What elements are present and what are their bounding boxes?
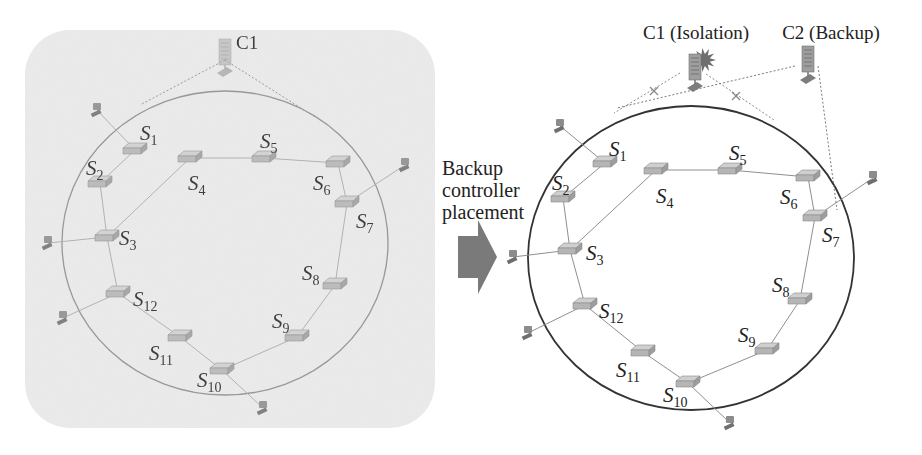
network-ring — [528, 106, 854, 410]
switch-s10 — [676, 376, 700, 387]
controller-c2-label: C2 (Backup) — [782, 22, 880, 44]
switch-s12 — [106, 286, 130, 297]
switch-s6 — [796, 170, 820, 181]
switch-label-s7: S7 — [822, 223, 840, 250]
switch-label-s3: S3 — [586, 241, 604, 268]
switch-s4 — [644, 163, 668, 174]
switch-s7 — [335, 196, 359, 207]
switch-label-s4: S4 — [656, 184, 674, 211]
switch-s3 — [95, 230, 119, 241]
switch-s9 — [755, 343, 779, 354]
link-s8-s9 — [767, 300, 800, 350]
backup-controller-link — [818, 66, 837, 210]
switch-s12 — [573, 298, 597, 309]
host-icon — [522, 326, 533, 340]
switch-label-s2: S2 — [552, 171, 570, 198]
switch-label-s9: S9 — [738, 323, 756, 350]
link-s12-s3 — [570, 250, 585, 305]
transition-label-line-1: Backup — [442, 157, 503, 180]
switch-label-s11: S11 — [616, 358, 640, 385]
switch-label-s1: S1 — [609, 137, 627, 164]
controller-c2-icon — [800, 46, 816, 84]
right-network: S1S2S3S4S5S6S7S8S9S10S11S12C1 (Isolation… — [507, 22, 880, 430]
switch-s6 — [326, 156, 350, 167]
left-panel: S1S2S3S4S5S6S7S8S9S10S11S12C1 — [25, 30, 435, 428]
link-s2-s3 — [563, 198, 570, 250]
switch-s11 — [631, 345, 655, 356]
switch-s8 — [788, 293, 812, 304]
switch-s3 — [558, 243, 582, 254]
controller-c1-label: C1 — [236, 32, 258, 53]
controller-c1-icon — [687, 54, 703, 92]
switch-label-s5: S5 — [729, 141, 747, 168]
switch-s10 — [210, 363, 234, 374]
right-arrow-icon — [458, 220, 497, 294]
host-icon — [507, 250, 518, 264]
link-s7-s8 — [800, 217, 815, 300]
host-link — [688, 383, 730, 423]
backup-controller-link — [617, 66, 795, 108]
switch-label-s6: S6 — [780, 185, 798, 212]
switch-s8 — [323, 278, 347, 289]
host-icon — [554, 119, 565, 133]
switch-s11 — [168, 330, 192, 341]
transition: Backup controller placement — [442, 157, 525, 294]
transition-label-line-3: placement — [442, 201, 525, 224]
switch-label-s12: S12 — [599, 299, 624, 326]
switch-label-s8: S8 — [772, 273, 790, 300]
switch-s7 — [803, 210, 827, 221]
transition-label-line-2: controller — [442, 179, 520, 201]
switch-s4 — [178, 151, 202, 162]
controller-c1-label: C1 (Isolation) — [643, 22, 749, 44]
link-broken-x-icon — [732, 92, 740, 100]
sdn-backup-controller-diagram: S1S2S3S4S5S6S7S8S9S10S11S12C1 Backup con… — [0, 0, 922, 455]
